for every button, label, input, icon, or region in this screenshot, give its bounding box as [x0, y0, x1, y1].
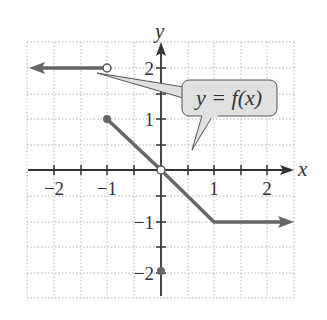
- y-axis-label: y: [153, 19, 165, 43]
- isolated-point: [157, 267, 165, 275]
- function-callout: y = f(x): [97, 73, 277, 150]
- y-tick-label: 2: [145, 58, 155, 79]
- closed-point-start: [103, 115, 111, 123]
- function-graph: −2 −1 1 2 2 1 −1 −2 x y y = f(x): [0, 0, 327, 320]
- y-tick-label: −2: [134, 263, 154, 284]
- x-tick-label: 1: [209, 178, 219, 199]
- callout-label: y = f(x): [194, 85, 262, 110]
- x-tick-label: 2: [262, 178, 272, 199]
- y-tick-label: −1: [134, 212, 154, 233]
- open-point-left: [103, 64, 111, 72]
- x-axis-label: x: [297, 157, 308, 181]
- x-tick-label: −1: [97, 178, 117, 199]
- x-tick-label: −2: [44, 178, 64, 199]
- y-tick-label: 1: [145, 109, 155, 130]
- open-point-origin: [157, 166, 165, 174]
